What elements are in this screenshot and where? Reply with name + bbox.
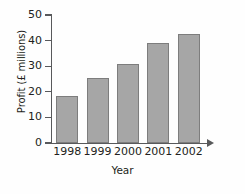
y-axis-tick-label: 10 — [0, 111, 42, 122]
y-axis-tick-label: 0 — [0, 137, 42, 148]
y-axis-tick-label: 40 — [0, 35, 42, 46]
y-axis-tick-mark — [45, 66, 52, 67]
bar-2001 — [147, 43, 169, 143]
bar-2000 — [117, 64, 139, 143]
y-axis-tick-mark — [45, 14, 52, 15]
bar-1998 — [56, 96, 78, 143]
bar-1999 — [87, 78, 109, 143]
x-axis-tick-label: 2002 — [171, 146, 207, 157]
bar-2002 — [178, 34, 200, 143]
y-axis-tick-mark — [45, 40, 52, 41]
plot-area — [52, 15, 204, 143]
y-axis-tick-label: 50 — [0, 9, 42, 20]
y-axis-tick-mark — [45, 142, 52, 143]
x-axis-arrow-icon — [207, 139, 214, 147]
y-axis-tick-mark — [45, 117, 52, 118]
y-axis-tick-label: 20 — [0, 86, 42, 97]
y-axis-tick-label: 30 — [0, 60, 42, 71]
y-axis-tick-mark — [45, 91, 52, 92]
bar-chart: Profit (£ millions) 01020304050 19981999… — [0, 0, 245, 194]
x-axis-title: Year — [0, 164, 245, 176]
